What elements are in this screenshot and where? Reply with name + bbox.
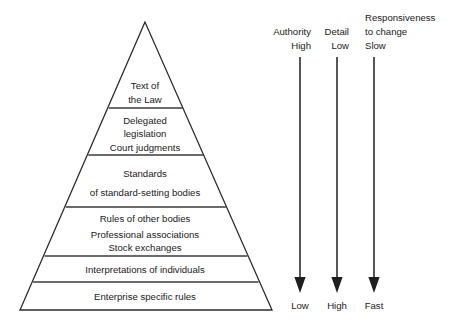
pyramid-band-2: Delegated legislation Court judgments [110, 115, 181, 153]
band-6-line-1: Enterprise specific rules [94, 291, 196, 302]
pyramid-band-1: Text of the Law [128, 80, 162, 105]
band-1-line-1: Text of [131, 80, 160, 91]
pyramid-band-6: Enterprise specific rules [94, 291, 196, 302]
band-5-line-1: Interpretations of individuals [85, 264, 205, 275]
axis-responsiveness-bottom-value: Fast [365, 300, 384, 311]
band-4-line-1: Rules of other bodies [100, 213, 191, 224]
band-1-line-2: the Law [128, 94, 162, 105]
hierarchy-pyramid-diagram: Text of the Law Delegated legislation Co… [0, 0, 452, 325]
axis-responsiveness-name-line-1: Responsiveness [365, 12, 436, 23]
pyramid-band-labels: Text of the Law Delegated legislation Co… [85, 80, 205, 302]
band-2-line-2: legislation [124, 128, 167, 139]
axis-responsiveness: Responsiveness to change Slow Fast [365, 12, 436, 311]
axis-detail-bottom-value: High [327, 300, 347, 311]
axis-responsiveness-top-value: Slow [365, 40, 386, 51]
band-4-line-2: Professional associations [91, 229, 199, 240]
axis-authority-arrowhead [294, 277, 305, 293]
axis-detail: Detail Low High [324, 26, 349, 311]
axis-responsiveness-name-line-2: to change [365, 26, 407, 37]
axis-authority-bottom-value: Low [291, 300, 309, 311]
axis-authority-name: Authority [273, 26, 311, 37]
band-2-line-3: Court judgments [110, 142, 181, 153]
axis-detail-arrowhead [331, 277, 342, 293]
pyramid-band-5: Interpretations of individuals [85, 264, 205, 275]
axis-detail-name: Detail [324, 26, 349, 37]
axis-authority-top-value: High [291, 40, 311, 51]
axis-authority: Authority High Low [273, 26, 311, 311]
diagram-canvas: Text of the Law Delegated legislation Co… [0, 0, 452, 325]
band-4-line-3: Stock exchanges [108, 242, 181, 253]
band-3-line-1: Standards [123, 168, 167, 179]
pyramid-band-3: Standards of standard-setting bodies [90, 168, 201, 198]
axis-detail-top-value: Low [331, 40, 349, 51]
band-2-line-1: Delegated [123, 115, 167, 126]
axis-responsiveness-arrowhead [368, 277, 379, 293]
band-3-line-2: of standard-setting bodies [90, 187, 201, 198]
pyramid-band-4: Rules of other bodies Professional assoc… [91, 213, 199, 253]
